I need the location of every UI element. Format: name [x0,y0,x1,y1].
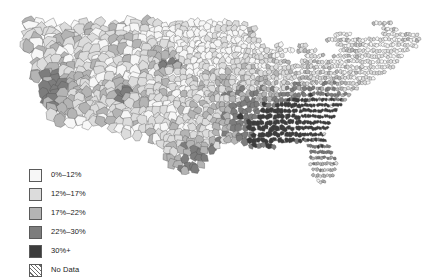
county-area [200,146,208,154]
county-area [266,64,271,70]
county-area [259,120,264,125]
legend-item-3: 22%–30% [29,224,189,240]
county-area [339,103,342,106]
county-area [280,53,284,58]
county-area [311,86,315,90]
county-area [343,70,347,74]
legend-item-2: 17%–22% [29,205,189,221]
county-area [326,126,329,129]
county-area [343,92,348,96]
county-area [251,75,256,81]
county-area [314,115,317,118]
county-area [331,174,335,177]
county-area [321,116,324,118]
county-area [377,59,381,63]
legend-swatch-0 [29,169,42,182]
county-area [275,52,280,57]
county-area [300,69,304,74]
county-area [280,113,286,119]
county-area [395,59,399,63]
county-area [286,60,291,64]
county-area [383,60,386,64]
county-area [364,38,367,41]
legend-swatch-4 [29,245,42,258]
county-area [327,121,331,124]
county-area [332,54,337,58]
legend-swatch-3 [29,226,42,239]
county-area [279,102,284,107]
county-area [371,76,375,80]
county-area [371,60,375,63]
county-area [275,126,280,132]
county-area [378,21,382,25]
county-area [355,65,358,69]
county-area [260,132,266,137]
county-area [380,60,384,64]
county-area [180,90,187,98]
county-area [132,130,142,141]
county-area [265,81,271,86]
legend-item-4: 30%+ [29,243,189,259]
county-area [340,81,344,85]
county-area [325,98,328,101]
county-area [312,168,315,171]
county-area [318,127,322,130]
county-area [251,126,257,131]
county-area [333,157,337,160]
legend-label-3: 22%–30% [51,228,86,236]
county-area [360,55,364,59]
county-area [271,145,276,150]
county-area [319,175,322,178]
county-area [334,168,337,171]
county-area [366,48,370,52]
county-area [307,138,311,141]
county-area [64,118,77,128]
county-area [337,91,341,95]
county-area [346,86,350,90]
county-area [347,39,351,43]
legend-label-nodata: No Data [51,266,79,274]
county-area [395,34,399,38]
county-area [295,98,300,102]
county-area [161,50,169,59]
county-area [274,87,280,92]
county-area [290,131,294,135]
county-area [406,48,410,51]
county-area [283,48,288,53]
county-area [313,104,316,108]
legend-item-0: 0%–12% [29,167,189,183]
county-area [314,145,317,148]
county-area [326,169,329,171]
county-area [297,93,301,98]
county-area [201,153,209,162]
legend-swatch-nodata [29,264,42,277]
county-area [392,43,396,47]
legend-label-2: 17%–22% [51,209,86,217]
county-area [346,65,349,70]
county-area [165,66,174,75]
county-area [274,80,278,84]
legend-swatch-1 [29,188,42,201]
county-area [321,53,325,57]
legend-label-1: 12%–17% [51,190,86,198]
county-area [311,173,315,177]
county-area [321,109,324,112]
county-area [323,146,326,149]
legend-item-1: 12%–17% [29,186,189,202]
choropleth-figure: 0%–12% 12%–17% 17%–22% 22%–30% 30%+ No D… [0,0,434,280]
counties-layer [20,15,421,184]
legend: 0%–12% 12%–17% 17%–22% 22%–30% 30%+ No D… [29,167,189,280]
county-area [309,163,313,166]
county-area [294,109,298,113]
county-area [335,70,339,74]
county-area [378,49,381,53]
county-area [254,101,260,107]
county-area [392,54,396,58]
county-area [348,93,352,97]
county-area [332,60,337,64]
county-area [320,60,324,64]
county-area [417,37,421,41]
county-area [341,64,345,68]
legend-swatch-2 [29,207,42,220]
county-area [275,119,280,124]
